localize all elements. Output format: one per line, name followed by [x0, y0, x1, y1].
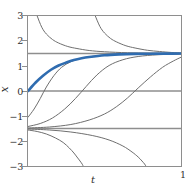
y-tick-label-neg2: −2 — [4, 137, 23, 147]
highlighted-curve-group — [28, 54, 181, 91]
y-tick-label-0: 0 — [4, 87, 23, 97]
curve-solution-diverging-down-1 — [28, 130, 83, 166]
curve-solution-from-minus-one-c — [28, 57, 181, 128]
plot-area — [27, 15, 182, 167]
y-tick-label-2: 2 — [4, 36, 23, 46]
y-tick-label-3: 3 — [4, 11, 23, 21]
x-tick-label-1: 1 — [176, 170, 190, 180]
y-tick-label-neg3: −3 — [4, 162, 23, 172]
x-axis-label: t — [91, 175, 95, 185]
curve-solution-upper-asymptote-2 — [95, 16, 181, 53]
curve-highlighted-solution — [28, 54, 181, 91]
curves-svg — [28, 16, 181, 166]
curve-solution-upper-asymptote-1 — [37, 16, 181, 53]
y-tick-label-1: 1 — [4, 62, 23, 72]
curve-solution-diverging-down-2 — [28, 129, 146, 166]
y-tick-label-neg1: −1 — [4, 112, 23, 122]
curve-solution-from-minus-one-a — [28, 54, 181, 118]
ode-solution-curves-figure: x 3 2 1 0 −1 −2 −3 1 t — [0, 0, 195, 193]
